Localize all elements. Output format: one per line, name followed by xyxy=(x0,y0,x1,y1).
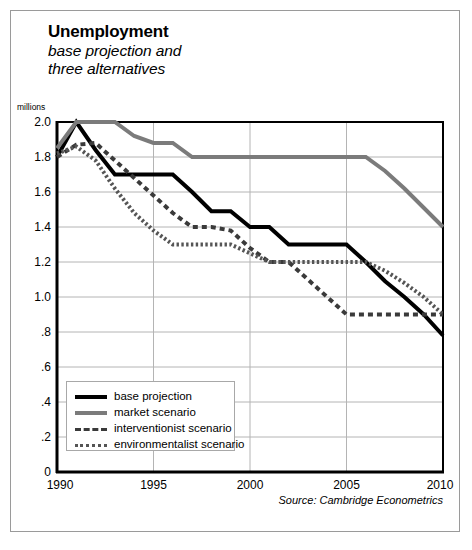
y-tick-label: .4 xyxy=(11,396,51,408)
y-tick-label: 1.0 xyxy=(11,291,51,303)
legend-item-environmentalist-scenario[interactable]: environmentalist scenario xyxy=(75,436,234,451)
legend-swatch-market-scenario-icon xyxy=(75,411,107,415)
x-tick-label: 1995 xyxy=(124,479,184,491)
legend-item-market-scenario[interactable]: market scenario xyxy=(75,404,234,419)
unemployment-chart-figure: Unemployment base projection and three a… xyxy=(0,0,472,550)
y-tick-label: 1.6 xyxy=(11,186,51,198)
y-tick-label: .8 xyxy=(11,326,51,338)
y-tick-label: 1.4 xyxy=(11,221,51,233)
legend-label-market-scenario: market scenario xyxy=(114,406,196,418)
y-tick-label: 2.0 xyxy=(11,116,51,128)
plot-area: 0.2.4.6.81.01.21.41.61.82.01990199520002… xyxy=(0,0,472,550)
y-tick-label: .6 xyxy=(11,361,51,373)
legend-item-interventionist-scenario[interactable]: interventionist scenario xyxy=(75,420,234,435)
legend-swatch-base-projection-icon xyxy=(75,395,107,399)
plot-canvas xyxy=(0,0,472,550)
x-tick-label: 1990 xyxy=(30,479,90,491)
y-tick-label: .2 xyxy=(11,431,51,443)
y-tick-label: 0 xyxy=(11,466,51,478)
legend-label-environmentalist-scenario: environmentalist scenario xyxy=(114,438,244,450)
x-tick-label: 2000 xyxy=(220,479,280,491)
source-note: Source: Cambridge Econometrics xyxy=(279,494,443,506)
legend-label-interventionist-scenario: interventionist scenario xyxy=(114,422,232,434)
legend-swatch-environmentalist-scenario-icon xyxy=(75,444,107,447)
chart-legend: base projection market scenario interven… xyxy=(66,381,235,451)
x-tick-label: 2010 xyxy=(410,479,470,491)
legend-item-base-projection[interactable]: base projection xyxy=(75,388,234,403)
y-tick-label: 1.2 xyxy=(11,256,51,268)
x-tick-label: 2005 xyxy=(317,479,377,491)
legend-swatch-interventionist-scenario-icon xyxy=(75,428,107,431)
legend-label-base-projection: base projection xyxy=(114,390,192,402)
y-tick-label: 1.8 xyxy=(11,151,51,163)
